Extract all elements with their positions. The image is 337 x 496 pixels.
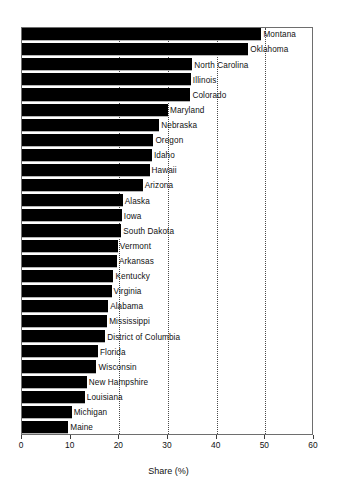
bar-row: Arkansas — [22, 255, 312, 270]
bar-label: District of Columbia — [107, 334, 180, 342]
bar-label: Oregon — [155, 137, 183, 145]
bar — [22, 134, 153, 147]
x-tick — [216, 435, 217, 439]
bar — [22, 28, 261, 41]
bar — [22, 88, 190, 101]
bar-row: Arizona — [22, 179, 312, 194]
bar — [22, 391, 85, 404]
bar — [22, 58, 192, 71]
bar — [22, 179, 143, 192]
x-tick-label: 0 — [19, 441, 24, 449]
bar-row: Idaho — [22, 149, 312, 164]
x-tick-label: 60 — [308, 441, 317, 449]
x-tick — [313, 435, 314, 439]
bar-row: Michigan — [22, 406, 312, 421]
bar-label: Louisiana — [87, 394, 123, 402]
bar-row: Oklahoma — [22, 43, 312, 58]
bar-label: Kentucky — [115, 273, 149, 281]
x-axis-title: Share (%) — [0, 466, 337, 476]
bar-row: Nebraska — [22, 119, 312, 134]
bar-label: Michigan — [74, 409, 108, 417]
bar — [22, 240, 118, 253]
bar — [22, 421, 68, 434]
x-tick-label: 50 — [260, 441, 269, 449]
bar-row: Colorado — [22, 88, 312, 103]
x-tick-label: 40 — [211, 441, 220, 449]
bar-label: Mississippi — [109, 318, 150, 326]
chart-figure: MontanaOklahomaNorth CarolinaIllinoisCol… — [0, 0, 337, 496]
bar-label: Hawaii — [152, 167, 177, 175]
bar — [22, 330, 105, 343]
bar-label: Illinois — [193, 77, 217, 85]
bar — [22, 406, 72, 419]
bar-row: Vermont — [22, 240, 312, 255]
bar-label: Colorado — [192, 92, 226, 100]
bar-row: District of Columbia — [22, 330, 312, 345]
bar-row: Maryland — [22, 104, 312, 119]
bar-row: North Carolina — [22, 58, 312, 73]
bar-label: South Dakota — [123, 228, 174, 236]
bar-label: Montana — [263, 31, 296, 39]
bar — [22, 270, 113, 283]
bar-label: Wisconsin — [98, 364, 136, 372]
bar — [22, 164, 150, 177]
bar-label: Arkansas — [119, 258, 154, 266]
bar — [22, 315, 107, 328]
bar-row: New Hampshire — [22, 376, 312, 391]
bar — [22, 104, 168, 117]
x-axis: 0102030405060 — [21, 435, 313, 440]
bar-label: Alabama — [110, 303, 143, 311]
bar — [22, 73, 191, 86]
bar — [22, 360, 96, 373]
x-tick — [167, 435, 168, 439]
bar-row: Alabama — [22, 300, 312, 315]
bar-row: South Dakota — [22, 224, 312, 239]
bar-row: Mississippi — [22, 315, 312, 330]
x-tick-label: 30 — [162, 441, 171, 449]
bar-label: Maryland — [170, 107, 204, 115]
x-tick — [118, 435, 119, 439]
bar — [22, 300, 108, 313]
bar-label: Virginia — [114, 288, 142, 296]
plot-area: MontanaOklahomaNorth CarolinaIllinoisCol… — [21, 27, 313, 435]
bar-label: Vermont — [120, 243, 151, 251]
bar-row: Florida — [22, 345, 312, 360]
bar-label: Idaho — [154, 152, 175, 160]
bar-row: Alaska — [22, 194, 312, 209]
bar-label: Alaska — [125, 198, 150, 206]
bar — [22, 224, 121, 237]
bar — [22, 149, 152, 162]
bar-label: Arizona — [145, 182, 173, 190]
x-tick — [264, 435, 265, 439]
bar — [22, 209, 122, 222]
bar-row: Montana — [22, 28, 312, 43]
bar-row: Virginia — [22, 285, 312, 300]
bar-label: Iowa — [124, 213, 142, 221]
bar-row: Oregon — [22, 134, 312, 149]
bar-row: Hawaii — [22, 164, 312, 179]
bar-row: Louisiana — [22, 391, 312, 406]
x-tick — [21, 435, 22, 439]
bar-label: Florida — [100, 349, 126, 357]
x-tick-label: 20 — [114, 441, 123, 449]
bar — [22, 43, 248, 56]
bar-row: Iowa — [22, 209, 312, 224]
bar-row: Kentucky — [22, 270, 312, 285]
bar — [22, 376, 87, 389]
bar — [22, 194, 123, 207]
bar-row: Illinois — [22, 73, 312, 88]
bar — [22, 285, 112, 298]
bar — [22, 255, 117, 268]
bar-row: Wisconsin — [22, 360, 312, 375]
x-tick-label: 10 — [65, 441, 74, 449]
bar — [22, 119, 159, 132]
bar-row: Maine — [22, 421, 312, 436]
bar-label: North Carolina — [194, 62, 248, 70]
bar-label: Nebraska — [161, 122, 197, 130]
bar — [22, 345, 98, 358]
x-tick — [70, 435, 71, 439]
bar-label: Maine — [70, 424, 93, 432]
bar-label: New Hampshire — [89, 379, 149, 387]
bar-label: Oklahoma — [250, 46, 288, 54]
